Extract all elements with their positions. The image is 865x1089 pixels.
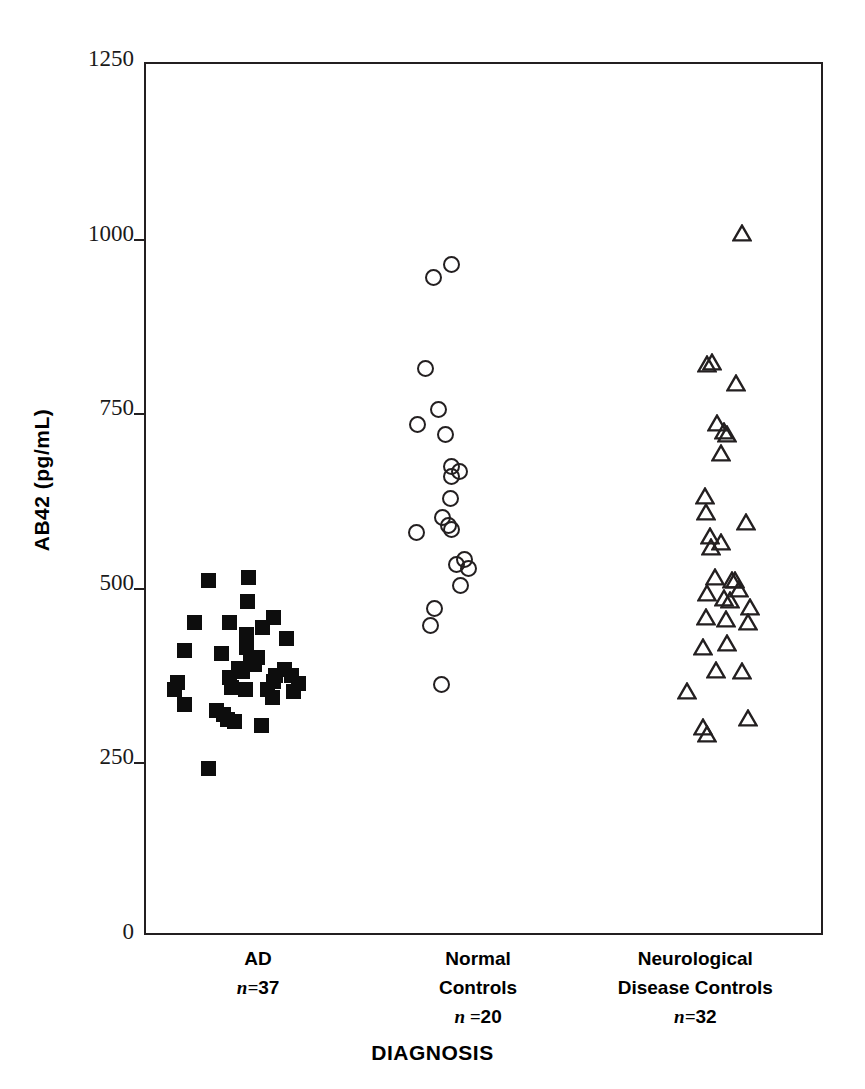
data-point-normal-control bbox=[443, 256, 460, 273]
data-point-ad bbox=[265, 690, 280, 705]
x-group-label-3: NeurologicalDisease Controlsn=32 bbox=[565, 944, 825, 1031]
plot-data-area bbox=[144, 62, 823, 935]
y-tick-label-1250: 1250 bbox=[64, 46, 134, 72]
data-point-normal-control bbox=[442, 490, 459, 507]
data-point-normal-control bbox=[417, 360, 434, 377]
data-point-ad bbox=[222, 615, 237, 630]
y-tick-label-750: 750 bbox=[64, 395, 134, 421]
group-label-line: Neurological bbox=[565, 944, 825, 973]
data-point-ad bbox=[201, 761, 216, 776]
group-label-line: Disease Controls bbox=[565, 973, 825, 1002]
y-axis-title: AB42 (pg/mL) bbox=[30, 350, 54, 610]
data-point-ad bbox=[240, 594, 255, 609]
data-point-ad bbox=[224, 680, 239, 695]
data-point-normal-control bbox=[409, 416, 426, 433]
group-sample-size: n=32 bbox=[565, 1002, 825, 1031]
data-point-ad bbox=[255, 620, 270, 635]
data-point-normal-control bbox=[443, 521, 460, 538]
data-point-normal-control bbox=[433, 676, 450, 693]
x-axis-group-labels: ADn=37NormalControlsn =20NeurologicalDis… bbox=[144, 944, 823, 1054]
data-point-normal-control bbox=[426, 600, 443, 617]
data-point-normal-control bbox=[448, 556, 465, 573]
data-point-ad bbox=[279, 631, 294, 646]
x-axis-title: DIAGNOSIS bbox=[0, 1041, 865, 1065]
scatter-plot-figure: AB42 (pg/mL) 025050075010001250 ADn=37No… bbox=[0, 0, 865, 1089]
data-point-ad bbox=[238, 682, 253, 697]
y-tick-label-1000: 1000 bbox=[64, 221, 134, 247]
y-tick-label-500: 500 bbox=[64, 570, 134, 596]
data-point-normal-control bbox=[443, 468, 460, 485]
data-point-ad bbox=[286, 684, 301, 699]
data-point-normal-control bbox=[408, 524, 425, 541]
y-tick-label-0: 0 bbox=[64, 919, 134, 945]
data-point-ad bbox=[214, 646, 229, 661]
data-point-normal-control bbox=[430, 401, 447, 418]
data-point-ad bbox=[241, 570, 256, 585]
data-point-ad bbox=[254, 718, 269, 733]
data-point-normal-control bbox=[452, 577, 469, 594]
data-point-ad bbox=[167, 682, 182, 697]
data-point-normal-control bbox=[437, 426, 454, 443]
data-point-ad bbox=[235, 664, 250, 679]
data-point-ad bbox=[201, 573, 216, 588]
y-tick-label-250: 250 bbox=[64, 744, 134, 770]
data-point-ad bbox=[227, 714, 242, 729]
data-point-ad bbox=[177, 643, 192, 658]
data-point-normal-control bbox=[425, 269, 442, 286]
data-point-ad bbox=[177, 697, 192, 712]
data-point-normal-control bbox=[422, 617, 439, 634]
data-point-ad bbox=[187, 615, 202, 630]
